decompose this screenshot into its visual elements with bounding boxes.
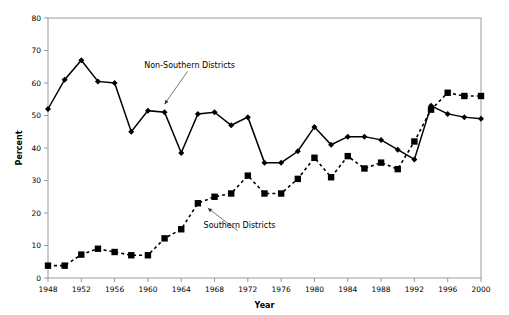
- data-point: [161, 235, 167, 241]
- series-line: [48, 60, 481, 162]
- x-tick-label: 1988: [372, 285, 391, 294]
- y-tick-label: 30: [31, 176, 41, 185]
- data-point: [361, 165, 367, 171]
- series-layer: [45, 57, 484, 269]
- data-point: [395, 166, 401, 172]
- data-point: [95, 246, 101, 252]
- data-point: [195, 200, 201, 206]
- data-point: [361, 134, 367, 140]
- data-point: [311, 155, 317, 161]
- data-point: [245, 172, 251, 178]
- data-point: [278, 190, 284, 196]
- y-tick-label: 60: [31, 79, 41, 88]
- data-point: [461, 114, 467, 120]
- y-axis-ticks: 01020304050607080: [31, 14, 48, 283]
- x-tick-label: 1952: [72, 285, 91, 294]
- x-tick-label: 1996: [438, 285, 457, 294]
- data-point: [61, 262, 67, 268]
- data-point: [262, 160, 268, 166]
- data-point: [78, 251, 84, 257]
- data-point: [228, 190, 234, 196]
- data-point: [261, 190, 267, 196]
- data-point: [295, 176, 301, 182]
- series-1: [45, 57, 484, 165]
- x-axis-ticks: 1948195219561960196419681972197619801984…: [38, 278, 490, 294]
- x-tick-label: 1976: [272, 285, 291, 294]
- data-point: [478, 116, 484, 122]
- data-point: [411, 156, 417, 162]
- x-tick-label: 1956: [105, 285, 124, 294]
- x-tick-label: 1980: [305, 285, 324, 294]
- data-point: [345, 134, 351, 140]
- y-tick-label: 0: [36, 274, 41, 283]
- x-tick-label: 1992: [405, 285, 424, 294]
- x-tick-label: 1960: [138, 285, 157, 294]
- data-point: [411, 138, 417, 144]
- data-point: [345, 153, 351, 159]
- annotation-layer: Non-Southern DistrictsSouthern Districts: [144, 61, 275, 230]
- plot-area-border: [48, 18, 481, 278]
- y-axis-title: Percent: [15, 130, 24, 165]
- data-point: [461, 93, 467, 99]
- data-point: [428, 106, 434, 112]
- data-point: [444, 90, 450, 96]
- chart-container: 01020304050607080 1948195219561960196419…: [0, 0, 509, 315]
- annotation-arrowhead: [165, 100, 169, 104]
- plot-frame: [48, 18, 481, 278]
- data-point: [111, 249, 117, 255]
- series-annotation-label: Non-Southern Districts: [144, 61, 235, 70]
- x-tick-label: 2000: [471, 285, 490, 294]
- series-2: [45, 90, 484, 269]
- y-tick-label: 40: [31, 144, 41, 153]
- data-point: [245, 114, 251, 120]
- x-tick-label: 1972: [238, 285, 257, 294]
- data-point: [445, 111, 451, 117]
- x-tick-label: 1948: [38, 285, 57, 294]
- annotation-leader-line: [165, 71, 188, 104]
- x-axis-title: Year: [254, 301, 275, 310]
- data-point: [378, 159, 384, 165]
- series-line: [48, 93, 481, 266]
- data-point: [195, 111, 201, 117]
- annotation-arrowhead: [208, 208, 212, 212]
- data-point: [45, 262, 51, 268]
- data-point: [178, 150, 184, 156]
- data-point: [328, 174, 334, 180]
- data-point: [162, 109, 168, 115]
- data-point: [128, 252, 134, 258]
- x-tick-label: 1968: [205, 285, 224, 294]
- y-tick-label: 70: [31, 46, 41, 55]
- data-point: [178, 226, 184, 232]
- y-tick-label: 10: [31, 241, 41, 250]
- y-tick-label: 50: [31, 111, 41, 120]
- x-tick-label: 1984: [338, 285, 357, 294]
- y-tick-label: 80: [31, 14, 41, 23]
- line-chart: 01020304050607080 1948195219561960196419…: [0, 0, 509, 315]
- data-point: [145, 252, 151, 258]
- series-annotation-label: Southern Districts: [204, 221, 276, 230]
- y-tick-label: 20: [31, 209, 41, 218]
- data-point: [211, 194, 217, 200]
- data-point: [478, 93, 484, 99]
- data-point: [112, 80, 118, 86]
- data-point: [45, 106, 51, 112]
- x-tick-label: 1964: [172, 285, 191, 294]
